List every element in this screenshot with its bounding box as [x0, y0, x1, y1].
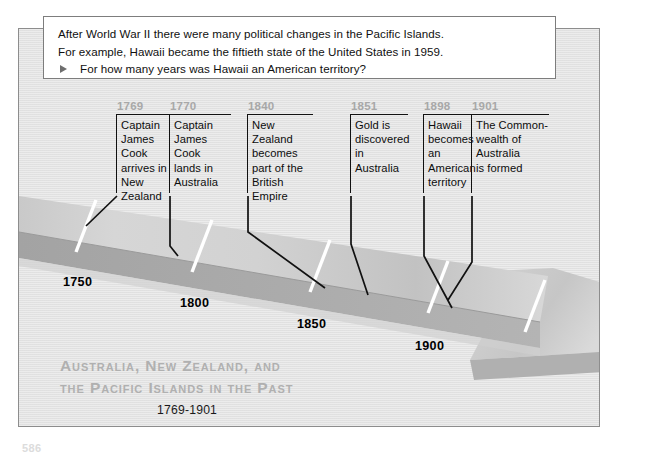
event-year-1769: 1769: [117, 100, 169, 112]
event-text-1851: Gold is discovered in Australia: [355, 118, 408, 175]
decade-label-1900: 1900: [415, 339, 444, 353]
intro-line-2: For example, Hawaii became the fiftieth …: [58, 44, 545, 60]
event-callout-1840: 1840 New Zealand becomes part of the Bri…: [247, 100, 313, 193]
event-body: Gold is discovered in Australia: [350, 115, 408, 193]
intro-callout: After World War II there were many polit…: [43, 16, 556, 79]
event-body: Captain James Cook arrives in New Zealan…: [116, 115, 169, 193]
intro-question-row: For how many years was Hawaii an America…: [58, 61, 545, 77]
event-body: New Zealand becomes part of the British …: [247, 115, 313, 193]
chart-range-label: 1769-1901: [157, 403, 217, 417]
event-year-1770: 1770: [170, 100, 231, 112]
decade-label-1750: 1750: [63, 275, 92, 289]
chart-title: Australia, New Zealand, and the Pacific …: [60, 355, 400, 399]
event-callout-1769: 1769 Captain James Cook arrives in New Z…: [116, 100, 169, 193]
event-year-1840: 1840: [248, 100, 313, 112]
event-year-1901: 1901: [472, 100, 549, 112]
event-text-1770: Captain James Cook lands in Australia: [174, 118, 231, 189]
decade-label-1800: 1800: [180, 296, 209, 310]
intro-question: For how many years was Hawaii an America…: [80, 61, 366, 77]
decade-label-1850: 1850: [297, 317, 326, 331]
intro-line-1: After World War II there were many polit…: [58, 26, 545, 42]
event-callout-1901: 1901 The Common- wealth of Australia is …: [471, 100, 549, 193]
event-text-1901: The Common- wealth of Australia is forme…: [476, 118, 549, 175]
event-text-1769: Captain James Cook arrives in New Zealan…: [121, 118, 169, 203]
triangle-right-icon: [60, 65, 67, 73]
event-text-1840: New Zealand becomes part of the British …: [252, 118, 313, 203]
timeline-infographic: After World War II there were many polit…: [0, 0, 653, 459]
event-callout-1770: 1770 Captain James Cook lands in Austral…: [169, 100, 231, 193]
event-year-1851: 1851: [351, 100, 408, 112]
event-callout-1851: 1851 Gold is discovered in Australia: [350, 100, 408, 193]
event-body: Captain James Cook lands in Australia: [169, 115, 231, 193]
page-number: 586: [22, 442, 42, 454]
event-body: The Common- wealth of Australia is forme…: [471, 115, 549, 193]
